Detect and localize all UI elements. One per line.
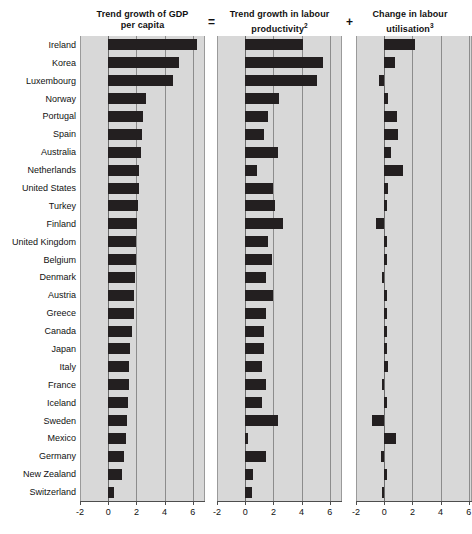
operator-equals: = <box>206 15 217 29</box>
bar-row <box>356 251 472 269</box>
category-label-germany: Germany <box>0 451 76 461</box>
bar-australia <box>384 147 391 158</box>
bar-greece <box>245 308 266 319</box>
x-tick-label: 0 <box>98 507 118 517</box>
bar-row <box>217 394 342 412</box>
category-label-luxembourg: Luxembourg <box>0 76 76 86</box>
bar-turkey <box>245 200 275 211</box>
category-label-turkey: Turkey <box>0 201 76 211</box>
bar-france <box>245 379 266 390</box>
x-tick-label: 4 <box>292 507 312 517</box>
bar-row <box>217 358 342 376</box>
x-tick-label: 0 <box>374 507 394 517</box>
bar-italy <box>108 361 129 372</box>
bar-row <box>217 251 342 269</box>
x-tick <box>273 501 274 505</box>
bar-luxembourg <box>379 75 384 86</box>
bar-france <box>108 379 128 390</box>
bar-row <box>80 215 205 233</box>
bar-row <box>80 340 205 358</box>
bar-row <box>80 54 205 72</box>
x-tick <box>193 501 194 505</box>
panel-title-gdp-per-capita: Trend growth of GDP per capita <box>75 9 210 31</box>
bar-austria <box>108 290 134 301</box>
bar-canada <box>384 326 387 337</box>
x-tick <box>165 501 166 505</box>
bar-germany <box>108 451 124 462</box>
bar-united-kingdom <box>108 236 136 247</box>
bar-portugal <box>245 111 268 122</box>
bar-new-zealand <box>245 469 253 480</box>
bar-netherlands <box>108 165 139 176</box>
category-label-italy: Italy <box>0 362 76 372</box>
bar-row <box>356 125 472 143</box>
bar-ireland <box>108 39 197 50</box>
bar-row <box>80 286 205 304</box>
bar-belgium <box>384 254 387 265</box>
bar-row <box>356 161 472 179</box>
bar-spain <box>245 129 263 140</box>
bar-row <box>80 465 205 483</box>
bar-japan <box>384 343 387 354</box>
category-label-norway: Norway <box>0 94 76 104</box>
bar-denmark <box>382 272 385 283</box>
category-label-finland: Finland <box>0 219 76 229</box>
bar-italy <box>384 361 388 372</box>
category-label-france: France <box>0 380 76 390</box>
x-tick-label: 2 <box>126 507 146 517</box>
bar-korea <box>384 57 395 68</box>
bar-row <box>356 376 472 394</box>
panel-title-line1: Trend growth in labour <box>230 9 330 19</box>
bar-row <box>217 54 342 72</box>
x-tick-label: 6 <box>183 507 203 517</box>
bar-japan <box>245 343 264 354</box>
bar-row <box>80 36 205 54</box>
bar-spain <box>108 129 142 140</box>
bar-iceland <box>384 397 387 408</box>
bar-row <box>80 108 205 126</box>
x-tick-label: 6 <box>320 507 340 517</box>
bar-row <box>217 447 342 465</box>
bar-row <box>80 251 205 269</box>
bar-row <box>80 304 205 322</box>
bar-row <box>217 36 342 54</box>
bar-canada <box>108 326 132 337</box>
bar-row <box>356 286 472 304</box>
x-axis-line <box>217 501 342 502</box>
bar-row <box>217 90 342 108</box>
bar-norway <box>245 93 279 104</box>
bar-mexico <box>108 433 126 444</box>
category-label-sweden: Sweden <box>0 416 76 426</box>
bar-austria <box>245 290 272 301</box>
bar-row <box>80 447 205 465</box>
panel-title-labour-utilisation: Change in labour utilisation3 <box>346 9 472 35</box>
bar-row <box>356 72 472 90</box>
bar-row <box>356 54 472 72</box>
bar-norway <box>384 93 388 104</box>
bar-united-states <box>245 183 273 194</box>
x-tick <box>217 501 218 505</box>
bar-row <box>356 233 472 251</box>
bar-australia <box>108 147 140 158</box>
bar-australia <box>245 147 277 158</box>
bar-row <box>217 72 342 90</box>
bar-korea <box>245 57 323 68</box>
category-label-spain: Spain <box>0 129 76 139</box>
bar-luxembourg <box>108 75 173 86</box>
bar-row <box>217 340 342 358</box>
bar-row <box>356 215 472 233</box>
bar-row <box>217 286 342 304</box>
x-tick <box>356 501 357 505</box>
category-label-austria: Austria <box>0 290 76 300</box>
bar-row <box>80 90 205 108</box>
bar-portugal <box>384 111 397 122</box>
bar-row <box>80 269 205 287</box>
bar-luxembourg <box>245 75 317 86</box>
bar-row <box>80 179 205 197</box>
bar-row <box>356 197 472 215</box>
bar-row <box>80 483 205 501</box>
bar-spain <box>384 129 398 140</box>
bar-row <box>217 483 342 501</box>
x-tick <box>412 501 413 505</box>
x-tick-label: 0 <box>235 507 255 517</box>
